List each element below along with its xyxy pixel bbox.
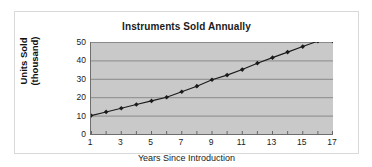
y-axis-tick-label: 50 <box>60 38 86 46</box>
plot-area <box>90 42 333 135</box>
data-point-marker <box>225 73 230 78</box>
data-point-marker <box>300 44 305 49</box>
y-axis-title-line-2: (thousand) <box>29 13 40 109</box>
x-axis-tick-label: 9 <box>209 138 214 147</box>
data-point-marker <box>255 61 260 66</box>
y-axis-tick-labels: 50403020100 <box>60 38 86 138</box>
y-axis-tick-label: 40 <box>60 56 86 64</box>
data-point-marker <box>179 89 184 94</box>
line-chart-plot <box>91 42 333 134</box>
data-point-marker <box>91 113 93 118</box>
x-axis-tick-label: 13 <box>267 138 276 147</box>
chart-title: Instruments Sold Annually <box>15 21 358 32</box>
chart-frame: Instruments Sold Annually Units Sold (th… <box>14 11 359 154</box>
data-point-marker <box>149 99 154 104</box>
x-axis-tick-label: 5 <box>148 138 153 147</box>
data-point-marker <box>134 102 139 107</box>
data-point-marker <box>119 106 124 111</box>
data-point-marker <box>164 95 169 100</box>
data-point-marker <box>104 110 109 115</box>
x-axis-tick-label: 1 <box>88 138 93 147</box>
data-point-marker <box>285 50 290 55</box>
x-axis-tick-label: 15 <box>297 138 306 147</box>
x-axis-tick-label: 11 <box>237 138 246 147</box>
x-axis-tick-label: 3 <box>118 138 123 147</box>
data-point-marker <box>210 77 215 82</box>
y-axis-tick-label: 10 <box>60 112 86 120</box>
x-axis-tick-labels: 1357911131517 <box>90 138 332 150</box>
y-axis-tick-label: 20 <box>60 93 86 101</box>
x-axis-tick-label: 7 <box>178 138 183 147</box>
y-axis-tick-label: 30 <box>60 75 86 83</box>
data-point-marker <box>195 84 200 89</box>
y-axis-title: Units Sold (thousand) <box>18 13 52 109</box>
y-axis-tick-label: 0 <box>60 130 86 138</box>
data-point-marker <box>270 55 275 60</box>
x-axis-tick-marks <box>92 131 333 134</box>
chart-screenshot: Instruments Sold Annually Units Sold (th… <box>0 0 372 167</box>
x-axis-tick-label: 17 <box>327 138 336 147</box>
data-point-marker <box>240 67 245 72</box>
y-axis-title-line-1: Units Sold <box>18 13 29 109</box>
x-axis-title: Years Since Introduction <box>15 153 358 163</box>
